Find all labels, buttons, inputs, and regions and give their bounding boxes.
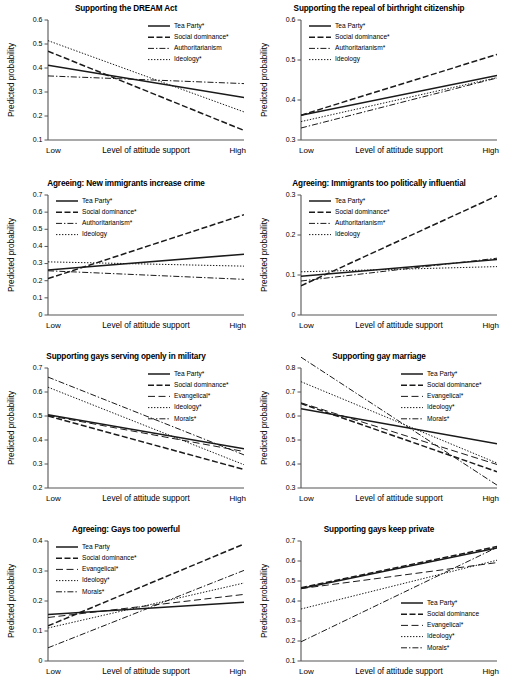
y-tick-label: 0.2 (33, 597, 43, 604)
plot-svg: 0.20.30.40.50.60.7Predicted probabilityL… (0, 348, 252, 522)
figure-panel-grid: Supporting the DREAM Act0.10.20.30.40.50… (0, 0, 505, 695)
y-tick-label: 0.8 (286, 364, 296, 371)
y-tick-label: 0.4 (33, 64, 43, 71)
series-line-3 (301, 563, 497, 589)
x-tick-label-low: Low (46, 667, 61, 676)
y-tick-label: 0.6 (286, 412, 296, 419)
legend-label-3: Evangelical* (427, 392, 464, 400)
legend-label-1: Tea Party* (335, 22, 366, 30)
y-axis-label: Predicted probability (260, 390, 269, 465)
series-line-2 (301, 54, 497, 115)
legend-label-2: Social dominance* (427, 381, 482, 388)
legend-label-1: Tea Party* (335, 197, 366, 205)
plot-svg: 00.10.20.30.40.50.60.7Predicted probabil… (0, 175, 252, 349)
panel-title: Agreeing: Immigrants too politically inf… (253, 179, 505, 188)
legend-label-4: Ideology* (82, 576, 110, 584)
series-line-3 (48, 76, 244, 84)
chart-panel-1: Supporting the DREAM Act0.10.20.30.40.50… (0, 0, 252, 174)
legend-label-4: Ideology* (427, 403, 455, 411)
y-tick-label: 0.4 (33, 537, 43, 544)
y-axis-label: Predicted probability (7, 42, 16, 117)
y-tick-label: 0.6 (286, 16, 296, 23)
plot-svg: 0.10.20.30.40.50.6Predicted probabilityL… (0, 0, 252, 174)
panel-title: Supporting the repeal of birthright citi… (253, 4, 505, 13)
series-line-1 (48, 415, 244, 449)
y-tick-label: 0.4 (33, 436, 43, 443)
legend-label-5: Morals* (427, 644, 450, 651)
y-axis-label: Predicted probability (260, 42, 269, 117)
y-tick-label: 0.7 (286, 537, 296, 544)
legend-label-2: Social dominance (427, 610, 479, 617)
chart-panel-7: Agreeing: Gays too powerful00.10.20.30.4… (0, 521, 252, 695)
series-line-1 (48, 602, 244, 614)
legend-label-5: Morals* (174, 415, 197, 422)
series-line-2 (301, 196, 497, 286)
y-tick-label: 0.3 (286, 617, 296, 624)
series-line-3 (301, 258, 497, 281)
panel-title: Supporting gays serving openly in milita… (0, 352, 252, 361)
plot-svg: 00.10.20.30.4Predicted probabilityLowHig… (0, 521, 252, 695)
legend: Tea Party*Social dominance*Authoritarian… (56, 197, 137, 239)
legend-label-1: Tea Party* (174, 370, 205, 378)
legend-label-1: Tea Party (82, 543, 111, 551)
x-axis-label: Level of attitude support (355, 146, 443, 155)
legend: Tea Party*Social dominance*Evangelical*I… (401, 370, 482, 422)
y-tick-label: 0.1 (33, 294, 43, 301)
plot-svg: 0.30.40.50.6Predicted probabilityLowHigh… (253, 0, 505, 174)
series-line-1 (48, 254, 244, 270)
series-line-3 (48, 271, 244, 280)
x-tick-label-high: High (483, 146, 499, 155)
y-tick-label: 0.6 (286, 557, 296, 564)
x-tick-label-high: High (483, 667, 499, 676)
y-tick-label: 0.3 (286, 136, 296, 143)
y-tick-label: 0.1 (33, 136, 43, 143)
legend-label-4: Ideology* (174, 403, 202, 411)
y-tick-label: 0.4 (286, 96, 296, 103)
legend-label-4: Ideology (335, 230, 361, 238)
legend-label-5: Morals* (427, 415, 450, 422)
chart-panel-5: Supporting gays serving openly in milita… (0, 348, 252, 522)
y-tick-label: 0.2 (33, 484, 43, 491)
legend-label-1: Tea Party* (174, 22, 205, 30)
x-tick-label-high: High (230, 321, 246, 330)
legend-label-2: Social dominance* (335, 208, 390, 215)
legend-label-4: Ideology (82, 230, 108, 238)
y-tick-label: 0.3 (33, 460, 43, 467)
series-line-2 (48, 215, 244, 279)
y-tick-label: 0.2 (286, 231, 296, 238)
series-line-3 (48, 594, 244, 617)
y-tick-label: 0.4 (286, 460, 296, 467)
series-line-5 (301, 357, 497, 485)
y-tick-label: 0.7 (33, 364, 43, 371)
series-line-4 (48, 41, 244, 112)
y-axis-label: Predicted probability (260, 217, 269, 292)
y-tick-label: 0.3 (286, 191, 296, 198)
legend-label-2: Social dominance* (174, 33, 229, 40)
chart-panel-4: Agreeing: Immigrants too politically inf… (253, 175, 505, 349)
x-tick-label-low: Low (46, 494, 61, 503)
panel-title: Supporting gays keep private (253, 525, 505, 534)
plot-svg: 00.10.20.3Predicted probabilityLowHighLe… (253, 175, 505, 349)
panel-title: Agreeing: New immigrants increase crime (0, 179, 252, 188)
y-tick-label: 0.3 (33, 259, 43, 266)
legend: Tea Party*Social dominance*Authoritarian… (309, 22, 390, 64)
panel-title: Supporting gay marriage (253, 352, 505, 361)
legend-label-5: Morals* (82, 588, 105, 595)
y-tick-label: 0.2 (33, 277, 43, 284)
y-tick-label: 0.5 (33, 412, 43, 419)
y-tick-label: 0.1 (33, 627, 43, 634)
panel-title: Supporting the DREAM Act (0, 4, 252, 13)
x-tick-label-low: Low (46, 321, 61, 330)
legend-label-3: Authoritarianism* (82, 219, 133, 226)
legend-label-1: Tea Party* (427, 599, 458, 607)
series-line-1 (48, 65, 244, 97)
y-axis-label: Predicted probability (7, 390, 16, 465)
x-axis-label: Level of attitude support (102, 667, 190, 676)
legend-label-2: Social dominance* (82, 208, 137, 215)
legend-label-2: Social dominance* (335, 33, 390, 40)
chart-panel-2: Supporting the repeal of birthright citi… (253, 0, 505, 174)
x-tick-label-low: Low (299, 146, 314, 155)
y-tick-label: 0.1 (286, 657, 296, 664)
plot-svg: 0.30.40.50.60.70.8Predicted probabilityL… (253, 348, 505, 522)
y-tick-label: 0 (292, 311, 296, 318)
